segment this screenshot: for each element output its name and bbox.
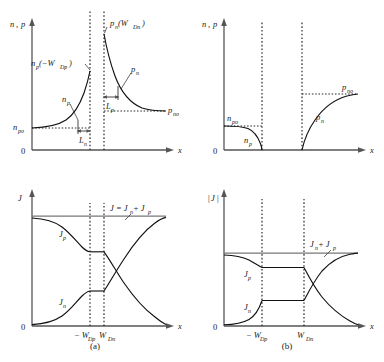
y-axis-arrowhead (29, 18, 35, 26)
y-axis-arrowhead (221, 189, 227, 197)
label-pno-sub: no (173, 111, 179, 117)
x-axis-label: x (369, 321, 374, 331)
label-pn-at-wdn-arg: (W (118, 18, 129, 28)
label-np-curve: n (244, 135, 248, 145)
x-axis-label: x (177, 321, 182, 331)
panel-bottom-right-current-density: | J | x 0 J n + J p J p J n − W Dp W Dn (192, 181, 384, 362)
y-axis-label-comma: , (16, 19, 18, 29)
y-axis-label-n: n (202, 19, 206, 29)
caption-b: (b) (267, 341, 307, 351)
origin-label: 0 (21, 322, 25, 332)
label-pn-at-wdn: p (109, 18, 114, 28)
origin-label: 0 (213, 146, 217, 156)
origin-label: 0 (213, 322, 217, 332)
y-axis-label: J (18, 193, 23, 203)
label-jp-sub: p (247, 275, 251, 281)
label-npo: n (13, 122, 17, 132)
curve-jp-nside (104, 252, 166, 325)
leader-pn-at-wdn (105, 27, 108, 33)
label-jp-sub: p (62, 235, 66, 241)
label-pn-curve: p (130, 64, 135, 74)
y-axis-arrowhead (221, 18, 227, 26)
curve-jn-nside (104, 217, 166, 291)
leader-np-at-minus-wdp (85, 64, 90, 70)
y-axis-arrowhead (29, 189, 35, 197)
x-axis-arrowhead (166, 147, 174, 153)
x-axis-label: x (369, 145, 374, 155)
panel-top-left-carrier-concentration: n , p x 0 n p (−W Dp ) p n (W Dn ) n p p… (0, 0, 192, 181)
leader-pn-curve (121, 73, 131, 89)
leader-np-curve (70, 104, 78, 120)
curve-jp-pside (224, 255, 262, 268)
label-lp-sub: p (110, 107, 114, 113)
label-pno-sub: no (347, 88, 353, 94)
label-wdn: W (297, 330, 305, 340)
origin-label: 0 (21, 146, 25, 156)
y-axis-label-p: p (20, 19, 25, 29)
curve-jn-pside (224, 301, 262, 325)
ln-arrow-left (77, 129, 82, 132)
label-np-curve-sub: p (248, 141, 252, 147)
y-axis-label: J (211, 193, 216, 203)
panel-bottom-left-current-density: J x 0 J = J n + J p J p J n − W Dp W Dn (0, 181, 192, 362)
label-np-at-minus-wdp: n (31, 58, 35, 68)
label-pn-curve: p (315, 112, 320, 122)
label-np-at-minus-wdp-close: ) (68, 58, 72, 68)
x-axis-arrowhead (166, 323, 174, 329)
curve-pn-reverse (302, 94, 358, 150)
label-pn-curve-sub: n (321, 118, 324, 124)
curve-np-forward (32, 71, 90, 128)
label-total-current-plus: + J (133, 203, 146, 213)
label-pn-at-wdn-arg-sub: Dn (132, 24, 140, 30)
y-axis-label-close-bar: | (217, 193, 219, 203)
label-np-curve: n (62, 94, 66, 104)
y-axis-label-n: n (10, 19, 14, 29)
ln-arrow-right (87, 129, 92, 132)
label-total-current-sub2: p (147, 209, 151, 215)
label-total-current: J = J (110, 203, 129, 213)
y-axis-label-comma: , (208, 19, 210, 29)
x-axis-arrowhead (358, 323, 366, 329)
label-ln-sub: n (84, 141, 87, 147)
label-np-at-minus-wdp-arg-sub: Dp (59, 64, 67, 70)
leader-total-label (125, 214, 131, 220)
curve-jn-nside (304, 253, 358, 300)
x-axis-label: x (177, 145, 182, 155)
lp-arrow-left (103, 95, 108, 98)
x-axis-arrowhead (358, 147, 366, 153)
panel-top-right-carrier-concentration: n , p x 0 n po p no n p p n (192, 0, 384, 181)
label-total-current-plus: + J (318, 239, 331, 249)
curve-jp-nside (304, 268, 358, 325)
label-npo-sub: po (231, 119, 238, 125)
label-pn-at-wdn-close: ) (141, 18, 145, 28)
label-np-at-minus-wdp-arg: (−W (39, 58, 56, 68)
label-pno: p (341, 82, 346, 92)
label-npo: n (227, 113, 231, 123)
label-npo-sub: po (17, 128, 24, 134)
label-jn-sub: n (248, 308, 251, 314)
caption-a: (a) (75, 341, 115, 351)
label-wdn: W (99, 330, 107, 340)
label-pno: p (167, 105, 172, 115)
figure-root: n , p x 0 n p (−W Dp ) p n (W Dn ) n p p… (0, 0, 384, 362)
label-total-current-sub2: p (332, 245, 336, 251)
label-jn-sub: n (63, 303, 66, 309)
lp-arrow-right (115, 95, 120, 98)
y-axis-label-p: p (212, 19, 217, 29)
y-axis-label-open-bar: | (208, 193, 210, 203)
curve-np-reverse (224, 126, 262, 150)
label-pn-curve-sub: n (136, 70, 139, 76)
label-np-curve-sub: p (66, 100, 70, 106)
